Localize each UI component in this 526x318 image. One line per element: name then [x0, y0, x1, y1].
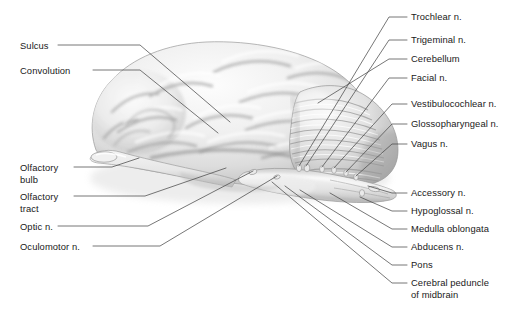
label-text: Sulcus: [20, 40, 49, 51]
label-text: Pons: [411, 259, 433, 270]
trigeminal-stub: [304, 164, 310, 172]
label-sulcus: Sulcus: [20, 40, 49, 52]
label-facial-n: Facial n.: [411, 72, 447, 84]
label-text: Glossopharyngeal n.: [411, 118, 499, 129]
brain-illustration: [0, 0, 526, 318]
label-text: Oculomotor n.: [20, 241, 80, 252]
label-accessory-n: Accessory n.: [411, 187, 466, 199]
label-pons: Pons: [411, 259, 433, 271]
label-text: Cerebellum: [411, 53, 460, 64]
label-text: Trigeminal n.: [411, 34, 466, 45]
label-hypoglossal-n: Hypoglossal n.: [411, 205, 474, 217]
label-abducens-n: Abducens n.: [411, 241, 464, 253]
label-olfactory-tract: Olfactorytract: [20, 191, 58, 214]
label-vagus-n: Vagus n.: [411, 138, 448, 150]
label-text: Trochlear n.: [411, 11, 462, 22]
label-text: Olfactory: [20, 162, 58, 173]
label-text: Vagus n.: [411, 138, 448, 149]
brain-anatomy-figure: SulcusConvolutionOlfactorybulbOlfactoryt…: [0, 0, 526, 318]
label-text-line2: bulb: [20, 174, 38, 185]
label-text: Olfactory: [20, 191, 58, 202]
label-trochlear-n: Trochlear n.: [411, 11, 462, 23]
label-olfactory-bulb: Olfactorybulb: [20, 162, 58, 185]
label-medulla-oblongata: Medulla oblongata: [411, 223, 489, 235]
label-text: Cerebral peduncle: [411, 277, 489, 288]
label-text: Optic n.: [20, 221, 53, 232]
label-text: Medulla oblongata: [411, 223, 489, 234]
label-convolution: Convolution: [20, 65, 70, 77]
brain-body: [58, 17, 420, 283]
label-oculomotor-n: Oculomotor n.: [20, 241, 80, 253]
label-text: Vestibulocochlear n.: [411, 98, 497, 109]
label-text: Accessory n.: [411, 187, 466, 198]
label-cerebellum: Cerebellum: [411, 53, 460, 65]
label-cerebral-peduncle: Cerebral peduncleof midbrain: [411, 277, 489, 300]
hypoglossal-stub: [359, 190, 364, 197]
label-text: Hypoglossal n.: [411, 205, 474, 216]
label-text: Convolution: [20, 65, 70, 76]
label-text: Abducens n.: [411, 241, 464, 252]
label-text: Facial n.: [411, 72, 447, 83]
label-text-line2: tract: [20, 203, 39, 214]
label-vestibulocochlear-n: Vestibulocochlear n.: [411, 98, 497, 110]
label-trigeminal-n: Trigeminal n.: [411, 34, 466, 46]
label-glossopharyngeal-n: Glossopharyngeal n.: [411, 118, 499, 130]
label-optic-n: Optic n.: [20, 221, 53, 233]
label-text-line2: of midbrain: [411, 289, 458, 300]
